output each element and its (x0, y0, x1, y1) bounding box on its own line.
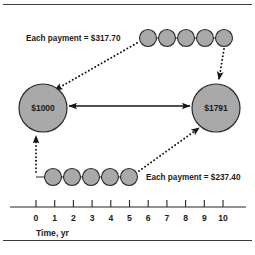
axis-tick-label-6: 6 (146, 213, 151, 223)
top-payment-circle-year-6 (140, 30, 157, 47)
bottom-payment-circle-year-1 (45, 169, 62, 186)
bottom-payment-circle-year-3 (83, 169, 100, 186)
axis-title: Time, yr (36, 228, 69, 238)
axis-tick-label-2: 2 (71, 213, 76, 223)
axis-tick-label-1: 1 (52, 213, 57, 223)
axis-tick-label-4: 4 (108, 213, 113, 223)
axis-tick-label-7: 7 (165, 213, 170, 223)
axis-tick-label-10: 10 (218, 213, 228, 223)
axis-tick-label-0: 0 (34, 213, 39, 223)
bottom-payment-circle-year-5 (121, 169, 138, 186)
bottom-payment-label: Each payment = $237.40 (146, 173, 241, 182)
axis-tick-label-9: 9 (202, 213, 207, 223)
present-value-node: $1000 (19, 84, 67, 132)
bottom-payment-series (36, 169, 138, 186)
arrow-top-series-to-future (219, 49, 224, 79)
present-value-label: $1000 (31, 103, 55, 113)
cash-flow-diagram: Each payment = $317.70 $1000 $1791 Each … (0, 0, 255, 255)
future-value-node: $1791 (192, 84, 240, 132)
arrow-bottom-series-to-future (139, 128, 199, 171)
arrow-top-series-to-present (55, 43, 137, 90)
top-payment-circle-year-9 (197, 30, 214, 47)
axis-tick-label-8: 8 (183, 213, 188, 223)
axis-tick-label-5: 5 (127, 213, 132, 223)
future-value-label: $1791 (204, 103, 228, 113)
axis-tick-label-3: 3 (90, 213, 95, 223)
bottom-payment-circle-year-2 (64, 169, 81, 186)
top-payment-circle-year-7 (159, 30, 176, 47)
top-payment-circle-year-10 (216, 30, 233, 47)
diagram-canvas: Each payment = $317.70 $1000 $1791 Each … (0, 0, 255, 255)
top-payment-series (140, 30, 233, 47)
top-payment-circle-year-8 (178, 30, 195, 47)
top-payment-label: Each payment = $317.70 (26, 34, 121, 43)
bottom-payment-circle-year-4 (102, 169, 119, 186)
time-axis: 0 1 2 3 4 5 6 7 8 9 10 Time, yr (10, 200, 246, 238)
